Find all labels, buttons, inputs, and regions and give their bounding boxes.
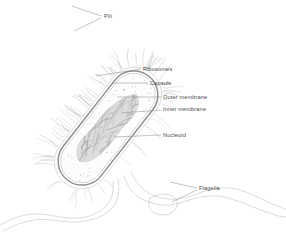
pilus-filament <box>48 180 60 190</box>
pilus-filament <box>133 143 147 157</box>
pilus-filament <box>33 157 53 159</box>
label-inner-membrane: Inner membrane <box>163 106 206 112</box>
pilus-filament <box>41 159 53 160</box>
pilus-filament <box>38 138 57 148</box>
pilus-filament <box>121 157 131 165</box>
pilus-filament <box>37 160 53 162</box>
pilus-filament <box>132 143 141 150</box>
label-ribosomes: Ribosomes <box>143 66 172 72</box>
label-nucleoid: Nucleoid <box>163 132 186 138</box>
pilus-filament <box>143 49 145 68</box>
label-capsule: Capsule <box>150 80 172 86</box>
pilus-filament <box>35 163 53 164</box>
label-pili: Pili <box>104 13 112 19</box>
pilus-filament <box>104 180 115 188</box>
pilus-filament <box>68 190 76 206</box>
pilus-filament <box>75 95 90 106</box>
flagella-group <box>0 172 286 231</box>
pilus-filament <box>162 86 183 87</box>
pilus-filament <box>87 92 95 99</box>
pilus-filament <box>151 119 166 130</box>
pilus-filament <box>127 49 129 66</box>
pilus-filament <box>163 90 181 92</box>
bacterial-cell-diagram: Pili Ribosomes Capsule Outer membrane In… <box>0 0 286 251</box>
diagram-canvas: Pili Ribosomes Capsule Outer membrane In… <box>0 0 286 251</box>
pilus-filament <box>163 91 175 92</box>
pilus-filament <box>60 110 76 123</box>
pilus-filament <box>66 108 79 120</box>
pilus-filament <box>52 119 69 132</box>
pilus-filament <box>146 126 162 140</box>
pilus-filament <box>75 190 78 209</box>
label-outer-membrane: Outer membrane <box>163 94 207 100</box>
pilus-filament <box>34 154 54 157</box>
label-flagella: Flagella <box>199 185 221 191</box>
pilus-filament <box>112 55 122 69</box>
pilus-filament <box>85 190 86 199</box>
leader-pili <box>72 6 101 31</box>
pilus-filament <box>47 181 61 187</box>
pilus-filament <box>108 54 121 70</box>
pilus-filament <box>89 190 92 203</box>
pilus-filament <box>145 126 158 135</box>
pilus-filament <box>135 53 137 65</box>
pilus-filament <box>98 185 105 194</box>
